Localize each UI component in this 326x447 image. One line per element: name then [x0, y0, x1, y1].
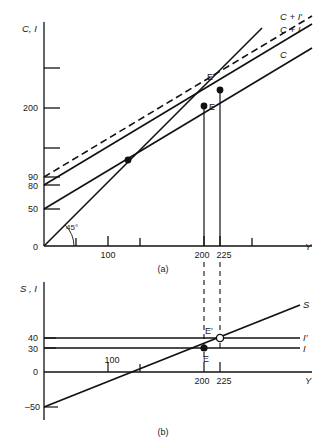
point-e-panel-b — [200, 344, 207, 351]
point-label-e-panel-a: E — [209, 102, 215, 112]
point-e-prime-panel-a — [217, 87, 224, 94]
point-label-e-panel-b: E — [203, 354, 209, 364]
economics-figure: C, I Y 200 90 80 50 0 100 200 225 C + I′… — [0, 0, 326, 447]
point-label-e-prime-panel-b: E′ — [205, 326, 213, 336]
panel-a: C, I Y 200 90 80 50 0 100 200 225 C + I′… — [22, 11, 312, 274]
panel-a-angle-label: 45° — [66, 223, 78, 232]
point-e-prime-panel-b — [216, 334, 223, 341]
panel-b-xtick-label-200: 200 — [194, 376, 209, 386]
panel-b-ytick-label-30: 30 — [28, 344, 38, 354]
panel-a-ytick-label-0: 0 — [33, 242, 38, 252]
curve-label-i-prime: I′ — [303, 332, 309, 343]
figure-canvas: C, I Y 200 90 80 50 0 100 200 225 C + I′… — [0, 0, 326, 447]
curve-label-c-plus-i-prime: C + I′ — [280, 11, 303, 22]
point-e-panel-a — [201, 103, 208, 110]
panel-b-caption: (b) — [158, 427, 169, 437]
panel-a-ytick-label-200: 200 — [23, 103, 38, 113]
inter-panel-connectors — [204, 262, 220, 358]
panel-b-x-axis-label: Y — [305, 375, 312, 386]
panel-a-xtick-label-225: 225 — [216, 250, 231, 260]
curve-s — [44, 305, 300, 407]
panel-a-ytick-label-80: 80 — [28, 181, 38, 191]
panel-a-xtick-label-100: 100 — [100, 250, 115, 260]
panel-a-xtick-label-200: 200 — [194, 250, 209, 260]
panel-a-x-axis-label: Y — [305, 241, 312, 252]
curve-c — [44, 48, 312, 209]
point-label-e-prime-panel-a: E′ — [207, 72, 215, 82]
curve-c-plus-i — [44, 24, 312, 185]
panel-b-ytick-label-0: 0 — [33, 367, 38, 377]
line-45-degree — [44, 28, 262, 246]
panel-b-xtick-label-100: 100 — [104, 355, 119, 365]
curve-c-plus-i-prime — [44, 16, 312, 177]
panel-b-xtick-label-225: 225 — [216, 376, 231, 386]
curve-label-c-plus-i: C + I — [280, 24, 301, 35]
curve-label-i: I — [303, 343, 306, 354]
panel-b-y-axis-label: S , I — [20, 283, 37, 294]
panel-b-ytick-label-minus50: –50 — [25, 402, 40, 412]
panel-b: S , I Y 40 30 0 –50 100 200 225 S I′ I E… — [20, 282, 312, 437]
panel-a-y-axis-label: C, I — [22, 23, 37, 34]
panel-a-ytick-label-50: 50 — [28, 204, 38, 214]
panel-a-caption: (a) — [158, 264, 169, 274]
point-c-crossing-panel-a — [125, 157, 132, 164]
curve-label-s: S — [303, 299, 310, 310]
panel-b-ytick-label-40: 40 — [28, 333, 38, 343]
curve-label-c: C — [280, 49, 287, 60]
